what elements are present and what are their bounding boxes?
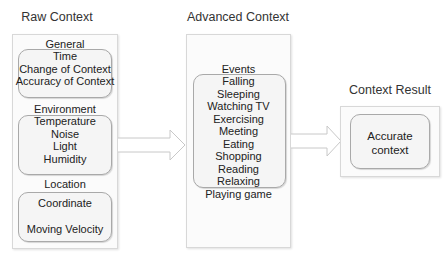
event-item: Relaxing [186,175,291,188]
event-item: Reading [186,163,291,176]
environment-item: Light [12,140,118,153]
environment-item: Humidity [12,153,118,166]
events-items: Falling Sleeping Watching TV Exercising … [186,75,291,200]
event-item: Eating [186,138,291,151]
location-item-coordinate: Coordinate [12,197,118,210]
advanced-context-title: Advanced Context [186,10,290,24]
environment-items: Temperature Noise Light Humidity [12,115,118,165]
general-item: Accuracy of Context [12,75,118,88]
event-item: Exercising [186,113,291,126]
context-result-title: Context Result [338,83,442,97]
event-item: Meeting [186,125,291,138]
event-item: Sleeping [186,88,291,101]
location-header: Location [12,178,118,191]
event-item: Falling [186,75,291,88]
environment-item: Noise [12,128,118,141]
location-item-moving-velocity: Moving Velocity [12,223,118,236]
event-item: Shopping [186,150,291,163]
general-item: Time [12,50,118,63]
event-item: Playing game [186,188,291,201]
result-line: Accurate [350,129,430,143]
environment-item: Temperature [12,115,118,128]
event-item: Watching TV [186,100,291,113]
environment-header: Environment [12,103,118,116]
arrow-right-icon [118,128,188,162]
general-items: Time Change of Context Accuracy of Conte… [12,50,118,88]
arrow-right-icon [291,124,343,158]
general-item: Change of Context [12,63,118,76]
context-result-text: Accurate context [350,129,430,157]
raw-context-title: Raw Context [12,10,102,24]
result-line: context [350,143,430,157]
